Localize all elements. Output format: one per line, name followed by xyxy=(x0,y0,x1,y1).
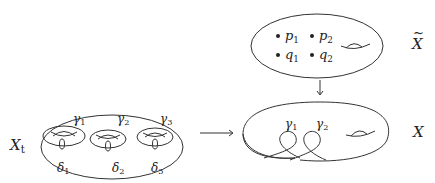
arrow-down xyxy=(317,80,323,95)
label-xt: Xt xyxy=(10,138,25,155)
label-delta-1: δ1 xyxy=(57,162,69,176)
label-delta-2: δ2 xyxy=(112,162,124,176)
torus-1-icon xyxy=(43,126,85,149)
node-loop-1-icon xyxy=(264,131,300,158)
x-handle-icon xyxy=(346,131,375,136)
point-q2: q2 xyxy=(310,48,333,63)
torus-3-icon xyxy=(137,128,173,149)
label-x: X xyxy=(413,125,424,140)
point-p1: p1 xyxy=(276,29,299,44)
label-gamma-2: γ2 xyxy=(117,113,129,127)
dot-icon xyxy=(310,34,314,38)
label-x-tilde: X xyxy=(412,37,423,52)
label-delta-3: δ3 xyxy=(151,162,163,176)
point-q1: q1 xyxy=(276,48,299,63)
x-tilde-surface xyxy=(251,14,383,78)
label-gamma-3: γ3 xyxy=(160,113,172,127)
label-x-gamma-2: γ2 xyxy=(316,118,328,132)
torus-2-icon xyxy=(90,130,126,151)
point-p2: p2 xyxy=(310,29,333,44)
label-x-gamma-1: γ1 xyxy=(285,118,297,132)
arrow-right xyxy=(200,130,233,136)
dot-icon xyxy=(276,34,280,38)
label-gamma-1: γ1 xyxy=(73,113,85,127)
diagram-canvas xyxy=(0,0,435,183)
x-tilde-handle-icon xyxy=(341,44,370,49)
dot-icon xyxy=(276,53,280,57)
dot-icon xyxy=(310,53,314,57)
